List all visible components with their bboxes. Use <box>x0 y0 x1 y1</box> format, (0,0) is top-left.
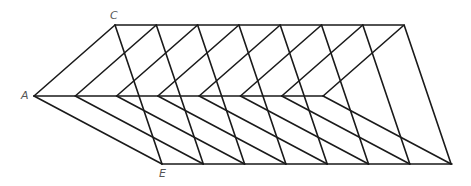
label-A: A <box>21 89 29 102</box>
segment-AC-0 <box>34 25 115 96</box>
segment-AC-2 <box>117 25 198 96</box>
label-E: E <box>159 167 166 180</box>
segment-AC-7 <box>323 25 404 96</box>
segment-AC-6 <box>282 25 363 96</box>
label-C: C <box>110 9 118 22</box>
segment-AC-3 <box>158 25 239 96</box>
segment-AC-5 <box>241 25 322 96</box>
tessellation-diagram <box>0 0 471 186</box>
segment-AC-1 <box>75 25 156 96</box>
segment-AC-4 <box>199 25 280 96</box>
diagram-lines <box>34 25 452 164</box>
